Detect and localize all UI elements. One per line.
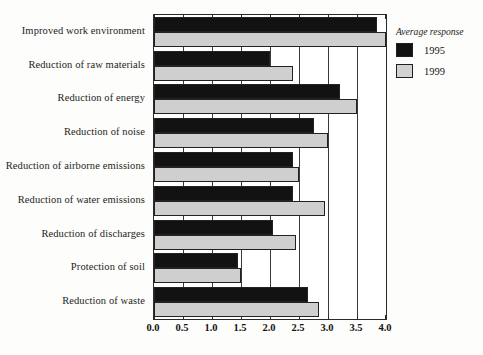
y-axis-category-labels: Improved work environmentReduction of ra… [0, 0, 149, 355]
bar-1995 [154, 51, 270, 66]
x-tick-label: 2.0 [262, 322, 275, 333]
bar-1999 [154, 235, 296, 250]
category-label: Reduction of airborne emissions [6, 160, 145, 171]
bar-1999 [154, 167, 299, 182]
category-label: Reduction of waste [62, 295, 145, 306]
x-tick-label: 3.0 [320, 322, 333, 333]
bar-1999 [154, 32, 386, 47]
legend-label-1999: 1999 [424, 66, 445, 77]
x-tick-label: 0.5 [175, 322, 188, 333]
bar-1995 [154, 152, 293, 167]
x-axis-tick-labels: 0.00.51.01.52.02.53.03.54.0 [153, 322, 385, 338]
bar-1999 [154, 302, 319, 317]
bar-1995 [154, 220, 273, 235]
bar-1999 [154, 66, 293, 81]
bar-1999 [154, 99, 357, 114]
category-label: Reduction of discharges [41, 228, 145, 239]
bar-group [154, 287, 386, 317]
legend-item-1995: 1995 [396, 43, 480, 57]
bar-1995 [154, 118, 314, 133]
bar-group [154, 118, 386, 148]
bar-1995 [154, 17, 377, 32]
x-tick-label: 0.0 [146, 322, 159, 333]
category-label: Reduction of raw materials [28, 59, 145, 70]
bar-group [154, 186, 386, 216]
bar-1995 [154, 253, 238, 268]
chart-legend: Average response 1995 1999 [396, 26, 480, 85]
bar-1995 [154, 186, 293, 201]
bar-group [154, 51, 386, 81]
chart-page: Improved work environmentReduction of ra… [0, 0, 483, 355]
legend-label-1995: 1995 [424, 45, 445, 56]
x-tick-label: 4.0 [378, 322, 391, 333]
bar-1999 [154, 201, 325, 216]
bar-group [154, 253, 386, 283]
legend-title: Average response [396, 26, 480, 37]
black-swatch-icon [396, 43, 413, 57]
x-tick-label: 1.5 [233, 322, 246, 333]
bar-group [154, 17, 386, 47]
category-label: Protection of soil [71, 261, 145, 272]
bar-1999 [154, 133, 328, 148]
x-tick-label: 1.0 [204, 322, 217, 333]
category-label: Reduction of water emissions [18, 194, 145, 205]
bar-group [154, 220, 386, 250]
bar-group [154, 152, 386, 182]
bar-1995 [154, 84, 340, 99]
bar-1995 [154, 287, 308, 302]
category-label: Reduction of energy [58, 92, 145, 103]
x-tick-label: 3.5 [349, 322, 362, 333]
bar-1999 [154, 268, 241, 283]
plot-area [153, 14, 387, 320]
category-label: Improved work environment [22, 25, 145, 36]
category-label: Reduction of noise [64, 126, 145, 137]
x-tick-label: 2.5 [291, 322, 304, 333]
bar-group [154, 84, 386, 114]
gray-swatch-icon [396, 64, 413, 78]
legend-item-1999: 1999 [396, 64, 480, 78]
